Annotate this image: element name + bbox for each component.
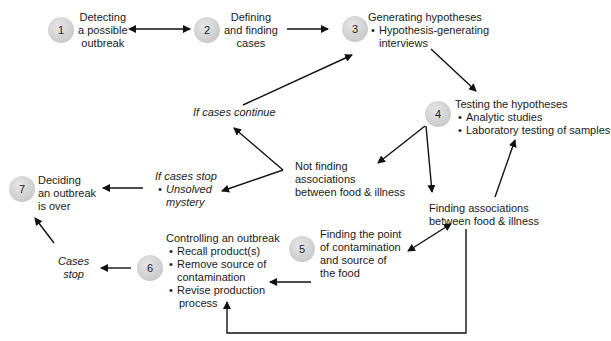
- arrow-notfinding-continue: [234, 128, 283, 170]
- arrow-notfinding-stop: [222, 170, 283, 191]
- step-3-bullet: Hypothesis-generating: [371, 24, 489, 37]
- branch-cases-stop: Cases stop: [58, 255, 89, 281]
- step-1-label: Detecting a possible outbreak: [78, 11, 128, 50]
- finding-line: Finding associations: [429, 202, 539, 215]
- not-finding-line: between food & illness: [295, 186, 405, 199]
- branch-finding: Finding associations between food & illn…: [429, 202, 539, 228]
- step-2-label: Defining and finding cases: [224, 11, 278, 50]
- step-6-bullet: Recall product(s): [169, 245, 280, 258]
- step-5-line: Finding the point: [320, 228, 401, 241]
- step-6-bullet-cont: contamination: [166, 271, 280, 284]
- step-7-label: Deciding an outbreak is over: [38, 174, 96, 213]
- step-4-label: Testing the hypotheses Analytic studies …: [455, 98, 610, 137]
- step-2-line: cases: [224, 37, 278, 50]
- step-1-line: a possible: [78, 24, 128, 37]
- branch-not-finding: Not finding associations between food & …: [295, 160, 405, 199]
- arrow-casesstop-7: [35, 218, 54, 243]
- arrow-finding-4: [495, 140, 515, 197]
- step-5-line: the food: [320, 267, 401, 280]
- step-7-badge: 7: [9, 176, 35, 202]
- if-stop-bullet: Unsolved: [158, 183, 217, 196]
- arrow-continue-3: [243, 55, 352, 105]
- step-7-line: Deciding: [38, 174, 96, 187]
- step-5-line: of contamination: [320, 241, 401, 254]
- step-1-line: Detecting: [78, 11, 128, 24]
- step-2-badge: 2: [194, 17, 220, 43]
- step-4-badge: 4: [425, 101, 451, 127]
- step-1-line: outbreak: [78, 37, 128, 50]
- step-4-title: Testing the hypotheses: [455, 98, 610, 111]
- step-4-bullet: Laboratory testing of samples: [458, 124, 610, 137]
- finding-line: between food & illness: [429, 215, 539, 228]
- step-3-title: Generating hypotheses: [368, 11, 489, 24]
- step-1-badge: 1: [48, 17, 74, 43]
- cases-stop-line: stop: [58, 268, 89, 281]
- step-5-badge: 5: [289, 236, 315, 262]
- step-6-bullet: Revise production: [169, 284, 280, 297]
- step-3-badge: 3: [342, 16, 368, 42]
- arrow-4-finding: [426, 126, 432, 192]
- step-6-label: Controlling an outbreak Recall product(s…: [166, 232, 280, 310]
- branch-if-continue: If cases continue: [193, 106, 276, 119]
- step-7-line: an outbreak: [38, 187, 96, 200]
- cases-stop-line: Cases: [58, 255, 89, 268]
- step-6-title: Controlling an outbreak: [166, 232, 280, 245]
- step-2-line: and finding: [224, 24, 278, 37]
- branch-if-stop: If cases stop Unsolved mystery: [155, 170, 217, 209]
- step-5-line: and source of: [320, 254, 401, 267]
- arrow-3-4: [431, 49, 476, 91]
- arrow-4-notfinding: [378, 126, 425, 163]
- step-6-bullet: Remove source of: [169, 258, 280, 271]
- step-6-bullet-cont: process: [166, 297, 280, 310]
- not-finding-line: Not finding: [295, 160, 405, 173]
- not-finding-line: associations: [295, 173, 405, 186]
- step-7-line: is over: [38, 200, 96, 213]
- step-3-label: Generating hypotheses Hypothesis-generat…: [368, 11, 489, 50]
- step-5-label: Finding the point of contamination and s…: [320, 228, 401, 280]
- step-2-line: Defining: [224, 11, 278, 24]
- step-4-bullet: Analytic studies: [458, 111, 610, 124]
- step-6-badge: 6: [137, 255, 163, 281]
- if-stop-title: If cases stop: [155, 170, 217, 183]
- step-3-bullet-cont: interviews: [368, 37, 489, 50]
- arrow-finding-5: [408, 227, 446, 251]
- if-stop-bullet-cont: mystery: [155, 196, 217, 209]
